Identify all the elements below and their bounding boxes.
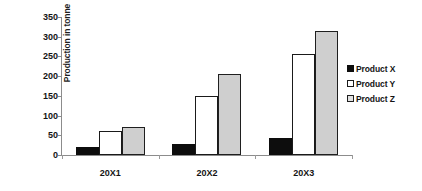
bar-product-z-20x1	[122, 127, 145, 155]
bar-product-z-20x2	[218, 74, 241, 155]
x-axis-tick-mark	[62, 155, 63, 159]
legend-item-label: Product Y	[356, 79, 395, 89]
bar-group	[62, 17, 159, 155]
x-axis-category-label: 20X1	[62, 168, 159, 178]
x-axis-category-labels: 20X120X220X3	[62, 168, 352, 182]
y-axis-tick-label: 150	[26, 91, 58, 101]
bar-product-x-20x3	[269, 138, 292, 155]
x-axis-line	[61, 155, 353, 156]
bar-product-x-20x1	[76, 147, 99, 155]
legend-swatch-icon	[347, 80, 354, 87]
legend-item-product-z: Product Z	[347, 92, 419, 105]
bar-chart-figure: Production in tonne 35030025020015010050…	[0, 0, 422, 191]
legend-item-product-y: Product Y	[347, 77, 419, 90]
bar-product-y-20x2	[195, 96, 218, 155]
y-axis-tick-label: 50	[26, 130, 58, 140]
y-axis-tick-label: 0	[26, 150, 58, 160]
y-axis-tick-label: 250	[26, 51, 58, 61]
chart-legend: Product XProduct YProduct Z	[347, 62, 419, 107]
y-axis-tick-label: 200	[26, 71, 58, 81]
legend-swatch-icon	[347, 65, 354, 72]
x-axis-tick-mark	[159, 155, 160, 159]
bar-group	[159, 17, 256, 155]
x-axis-tick-mark	[255, 155, 256, 159]
x-axis-category-label: 20X3	[255, 168, 352, 178]
bar-product-y-20x3	[292, 54, 315, 155]
y-axis-tick-labels: 350300250200150100500	[26, 11, 58, 161]
y-axis-tick-label: 300	[26, 32, 58, 42]
legend-item-label: Product X	[356, 64, 395, 74]
legend-item-label: Product Z	[356, 94, 395, 104]
x-axis-tick-mark	[352, 155, 353, 159]
y-axis-tick-label: 100	[26, 111, 58, 121]
legend-item-product-x: Product X	[347, 62, 419, 75]
legend-swatch-icon	[347, 95, 354, 102]
bar-product-x-20x2	[172, 144, 195, 155]
x-axis-category-label: 20X2	[159, 168, 256, 178]
bar-product-y-20x1	[99, 131, 122, 155]
bar-product-z-20x3	[315, 31, 338, 155]
y-axis-tick-label: 350	[26, 12, 58, 22]
bar-group	[255, 17, 352, 155]
plot-area	[62, 17, 352, 155]
